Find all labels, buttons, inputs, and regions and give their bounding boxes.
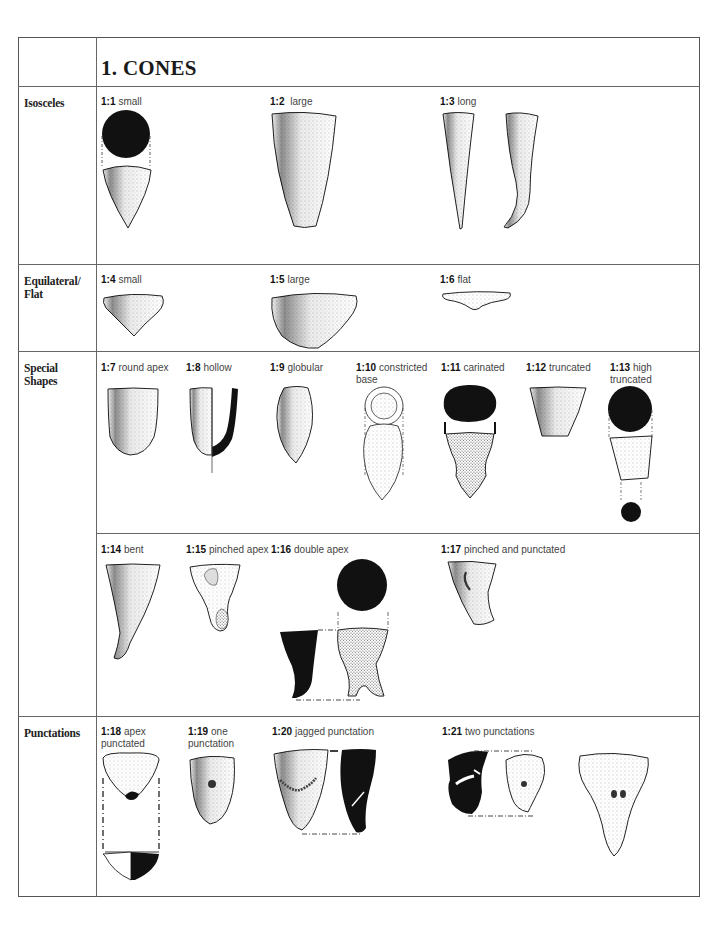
type-label-1-2: 1:2 large <box>270 96 312 108</box>
type-label-1-8: 1:8hollow <box>186 362 232 374</box>
figure-1-21-two-punctations-front <box>576 750 656 860</box>
type-label-1-6: 1:6flat <box>440 274 471 286</box>
type-label-1-21: 1:21two punctations <box>442 726 535 738</box>
figure-1-19-one-punctation <box>188 754 240 828</box>
type-label-1-13: 1:13hightruncated <box>610 362 652 386</box>
category-special-shapes: Special Shapes <box>24 362 74 388</box>
row-divider-isosceles <box>18 264 700 265</box>
category-punctations: Punctations <box>24 727 80 740</box>
figure-1-16-double-apex-section <box>278 560 418 700</box>
category-isosceles: Isosceles <box>24 97 64 110</box>
figure-1-1-small <box>100 110 160 235</box>
type-label-1-18: 1:18apexpunctated <box>101 726 146 750</box>
type-label-1-19: 1:19onepunctation <box>188 726 234 750</box>
type-label-1-7: 1:7round apex <box>101 362 169 374</box>
figure-1-5-large <box>268 292 362 352</box>
figure-1-2-large <box>268 112 340 230</box>
type-label-1-5: 1:5large <box>270 274 310 286</box>
figure-1-18-apex-punctated <box>101 752 163 882</box>
type-label-1-16: 1:16double apex <box>271 544 349 556</box>
figure-1-20-jagged-punctation <box>272 748 412 838</box>
figure-1-17-pinched-and-punctated <box>444 560 500 630</box>
type-label-1-20: 1:20jagged punctation <box>272 726 374 738</box>
type-label-1-12: 1:12truncated <box>526 362 591 374</box>
figure-1-6-flat <box>440 290 514 316</box>
type-label-1-3: 1:3long <box>440 96 476 108</box>
type-label-1-1: 1:1small <box>101 96 142 108</box>
type-label-1-9: 1:9globular <box>270 362 323 374</box>
figure-1-13-high-truncated <box>608 386 660 526</box>
figure-1-14-bent <box>102 563 164 663</box>
figure-1-21-two-punctations-section <box>444 748 564 828</box>
type-label-1-10: 1:10constrictedbase <box>356 362 427 386</box>
type-label-1-17: 1:17pinched and punctated <box>441 544 565 556</box>
row-divider-header <box>18 86 700 87</box>
row-divider-special-sub <box>96 533 700 534</box>
figure-1-10-constricted-base <box>360 386 410 506</box>
figure-1-7-round-apex <box>106 387 162 459</box>
figure-1-9-globular <box>272 385 318 467</box>
row-divider-special <box>18 716 700 717</box>
type-label-1-11: 1:11carinated <box>441 362 505 374</box>
column-divider <box>96 37 97 897</box>
category-equilateral-flat: Equilateral/ Flat <box>24 275 84 301</box>
figure-1-3-long-b <box>500 112 545 234</box>
type-label-1-4: 1:4small <box>101 274 142 286</box>
figure-1-11-carinated <box>440 384 500 504</box>
type-label-1-15: 1:15pinched apex <box>186 544 269 556</box>
figure-1-8-hollow <box>186 385 242 475</box>
figure-1-4-small <box>100 292 170 340</box>
page-title: 1. CONES <box>101 56 197 81</box>
figure-1-12-truncated <box>528 384 590 440</box>
figure-1-15-pinched-apex <box>188 563 244 635</box>
type-label-1-14: 1:14bent <box>101 544 143 556</box>
figure-1-3-long-a <box>440 112 480 234</box>
